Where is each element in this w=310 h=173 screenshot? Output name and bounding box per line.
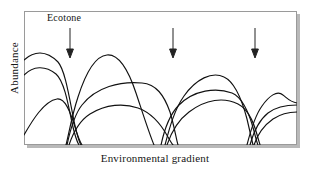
plot-area <box>24 11 297 145</box>
curve-species-5 <box>67 83 178 145</box>
curve-species-4 <box>66 55 154 145</box>
y-axis-label: Abundance <box>8 23 20 113</box>
x-axis-label: Environmental gradient <box>0 152 310 164</box>
curve-species-1 <box>24 53 81 145</box>
ecotone-figure: Ecotone Abundance Environmental gradient <box>0 0 310 173</box>
curve-species-6 <box>69 105 173 145</box>
curve-species-9 <box>167 100 260 145</box>
ecotone-label: Ecotone <box>47 12 81 23</box>
abundance-curves <box>24 11 297 145</box>
curve-species-12 <box>254 112 297 145</box>
curve-species-8 <box>165 75 253 145</box>
curve-species-11 <box>250 105 297 145</box>
